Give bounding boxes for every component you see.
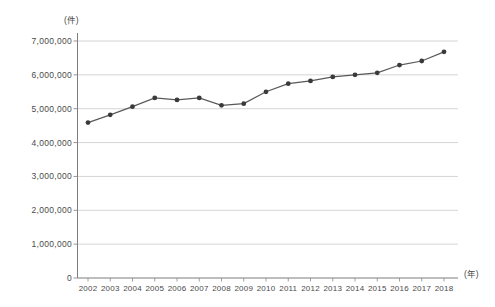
axis-lines [78, 33, 459, 278]
data-point [397, 63, 402, 68]
data-point [108, 112, 113, 117]
data-point [308, 79, 313, 84]
line-chart: (件) (年) 7,000,0006,000,0005,000,0004,000… [0, 0, 495, 307]
data-point [130, 104, 135, 109]
data-point [152, 95, 157, 100]
data-point-markers [86, 49, 447, 125]
gridlines [78, 41, 459, 244]
x-axis-ticks [88, 278, 444, 282]
data-point [86, 120, 91, 125]
data-point [286, 81, 291, 86]
data-point [264, 89, 269, 94]
data-line [88, 52, 444, 123]
data-point [175, 98, 180, 103]
data-point [197, 95, 202, 100]
data-point [442, 49, 447, 54]
data-point [219, 103, 224, 108]
data-point [330, 74, 335, 79]
data-point [241, 101, 246, 106]
y-axis-ticks [74, 41, 78, 278]
data-point [419, 59, 424, 64]
plot-area [0, 0, 495, 307]
data-point [353, 72, 358, 77]
data-point [375, 70, 380, 75]
